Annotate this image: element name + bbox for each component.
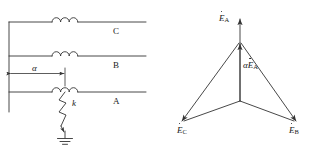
- vector-ec: [182, 43, 239, 121]
- phase-line-c: [9, 18, 146, 22]
- neutral-leg-left: [184, 101, 240, 121]
- fault-arrow-stem: [61, 126, 64, 132]
- phase-line-a: [9, 88, 146, 92]
- fault-zigzag-symbol: [59, 92, 66, 126]
- phase-label-a: A: [113, 97, 120, 106]
- inductor-a: [52, 88, 78, 92]
- phasor-diagram: [182, 19, 296, 121]
- alpha-dimension-label: α: [32, 64, 37, 73]
- phase-label-b: B: [113, 61, 119, 70]
- vector-eb: [241, 43, 296, 121]
- phasor-label-ea: EA: [219, 14, 229, 24]
- fault-branch: [58, 92, 73, 144]
- phase-label-c: C: [113, 27, 119, 36]
- alpha-dimension: [11, 68, 65, 86]
- fault-point-label: k: [72, 99, 76, 108]
- phasor-label-alpha-ea: αEA: [243, 61, 258, 71]
- neutral-leg-right: [240, 101, 294, 121]
- inductor-c: [52, 18, 78, 22]
- phase-line-b: [9, 52, 146, 56]
- inductor-b: [52, 52, 78, 56]
- phasor-label-eb: EB: [289, 126, 299, 136]
- earth-ground-icon: [58, 131, 73, 144]
- phasor-label-ec: EC: [177, 126, 187, 136]
- figure-canvas: [0, 0, 312, 155]
- circuit-diagram: [9, 18, 146, 145]
